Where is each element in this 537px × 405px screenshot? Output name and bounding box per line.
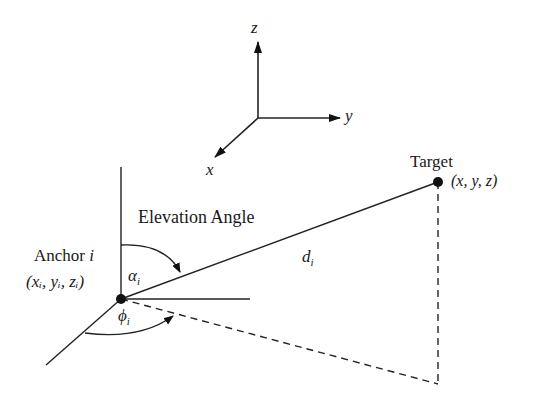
- phi-symbol: ϕ: [118, 306, 127, 325]
- elevation-angle-label: Elevation Angle: [138, 207, 254, 228]
- target-label: Target: [410, 152, 453, 172]
- anchor-point: [116, 294, 126, 304]
- distance-label: di: [302, 247, 314, 268]
- x-axis-label: x: [206, 160, 214, 180]
- diagram-svg: [0, 0, 537, 405]
- alpha-label: αi: [128, 266, 140, 287]
- diagram-canvas: z y x Elevation Angle Anchor i (xᵢ, yᵢ, …: [0, 0, 537, 405]
- anchor-coords-label: (xᵢ, yᵢ, zᵢ): [26, 272, 84, 292]
- x-axis-arrow: [215, 118, 258, 157]
- y-axis-label: y: [345, 106, 353, 126]
- anchor-index: i: [89, 246, 94, 265]
- phi-label: ϕi: [118, 306, 130, 327]
- anchor-text: Anchor: [34, 246, 85, 265]
- distance-line: [121, 182, 438, 299]
- target-coords-label: (x, y, z): [451, 172, 497, 190]
- coordinate-axes: [215, 42, 340, 157]
- anchor-x-line: [46, 299, 121, 365]
- alpha-subscript: i: [137, 275, 140, 287]
- phi-subscript: i: [127, 315, 130, 327]
- distance-subscript: i: [311, 256, 314, 268]
- target-point: [433, 177, 443, 187]
- anchor-label: Anchor i: [34, 246, 94, 266]
- distance-symbol: d: [302, 247, 311, 266]
- projection-line: [121, 299, 438, 384]
- z-axis-label: z: [251, 18, 258, 38]
- alpha-symbol: α: [128, 266, 137, 285]
